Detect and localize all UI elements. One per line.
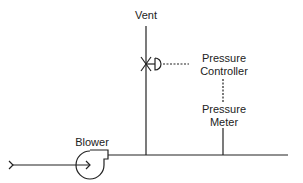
pressure-controller-label-line2: Controller: [200, 65, 248, 77]
vent-label: Vent: [135, 9, 157, 21]
pressure-meter-label-line1: Pressure: [202, 103, 246, 115]
process-diagram: Vent Pressure Controller Pressure Meter …: [0, 0, 303, 183]
pressure-controller-label-line1: Pressure: [202, 52, 246, 64]
valve-icon: [141, 57, 161, 71]
blower-label: Blower: [75, 136, 109, 148]
pressure-meter-label-line2: Meter: [210, 116, 238, 128]
diagram-canvas: [0, 0, 303, 183]
